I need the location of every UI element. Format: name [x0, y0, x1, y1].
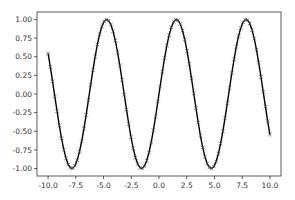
x-tick-label: 2.5 — [181, 181, 193, 190]
x-tick-label: 10.0 — [262, 181, 279, 190]
x-tick-label: 0.0 — [153, 181, 165, 190]
y-tick-label: -1.00 — [13, 164, 33, 173]
x-axis: -10.0-7.5-5.0-2.50.02.55.07.510.0 — [38, 176, 278, 190]
series-sin — [48, 20, 270, 169]
y-tick-label: 1.00 — [15, 15, 32, 24]
y-tick-label: -0.75 — [13, 146, 33, 155]
y-tick-label: 0.50 — [15, 52, 32, 61]
x-tick-label: -2.5 — [124, 181, 139, 190]
y-tick-label: -0.25 — [13, 108, 33, 117]
y-tick-label: 0.25 — [15, 71, 32, 80]
y-tick-label: -0.50 — [13, 127, 33, 136]
y-tick-label: 0.00 — [15, 90, 32, 99]
x-tick-label: -10.0 — [38, 181, 58, 190]
x-tick-label: -5.0 — [96, 181, 111, 190]
x-tick-label: 5.0 — [208, 181, 220, 190]
y-tick-label: 0.75 — [15, 34, 32, 43]
x-tick-label: -7.5 — [68, 181, 83, 190]
sine-chart: -10.0-7.5-5.0-2.50.02.55.07.510.0 -1.00-… — [0, 0, 295, 200]
sine-line — [48, 20, 270, 169]
y-axis: -1.00-0.75-0.50-0.250.000.250.500.751.00 — [13, 15, 37, 173]
x-tick-label: 7.5 — [236, 181, 248, 190]
